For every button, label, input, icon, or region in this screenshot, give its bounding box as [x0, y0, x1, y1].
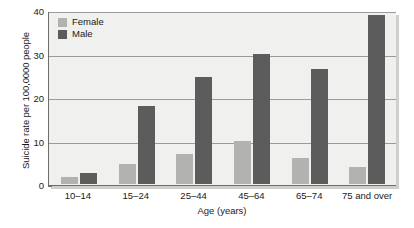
legend-item-male: Male: [58, 29, 104, 39]
bar-group: [165, 12, 223, 184]
x-axis-tick-label: 10–14: [49, 190, 107, 201]
legend-label: Male: [72, 29, 93, 39]
bar-group: [338, 12, 396, 184]
y-axis-tick-mark: [48, 186, 52, 187]
legend-label: Female: [72, 17, 104, 27]
legend-swatch-icon: [58, 18, 67, 27]
y-axis-tick-label: 40: [33, 7, 44, 17]
bar-male: [138, 106, 155, 184]
y-axis-tick-label: 20: [33, 94, 44, 104]
legend-swatch-icon: [58, 30, 67, 39]
y-axis-tick-label: 0: [39, 181, 44, 191]
plot-area: FemaleMale: [48, 12, 396, 186]
x-axis-tick-label: 15–24: [107, 190, 165, 201]
bar-male: [368, 15, 385, 184]
x-axis-tick-label: 75 and over: [338, 190, 396, 201]
bar-female: [119, 164, 136, 184]
y-axis-tick-label: 30: [33, 51, 44, 61]
x-axis-tick-label: 45–64: [222, 190, 280, 201]
chart-figure: Suicide rate per 100,0000 people 0102030…: [0, 0, 414, 228]
bar-male: [195, 77, 212, 184]
bar-female: [349, 167, 366, 184]
bar-female: [234, 141, 251, 185]
y-axis-tick-labels: 010203040: [24, 12, 44, 186]
chart-legend: FemaleMale: [58, 17, 104, 41]
bar-group: [223, 12, 281, 184]
bar-female: [292, 158, 309, 184]
bar-group: [281, 12, 339, 184]
bar-male: [311, 69, 328, 184]
legend-item-female: Female: [58, 17, 104, 27]
y-axis-tick-label: 10: [33, 138, 44, 148]
bar-group: [108, 12, 166, 184]
x-axis-tick-label: 65–74: [280, 190, 338, 201]
x-axis-tick-label: 25–44: [165, 190, 223, 201]
bar-female: [176, 154, 193, 184]
bar-female: [61, 177, 78, 184]
bar-male: [253, 54, 270, 184]
bar-male: [80, 173, 97, 184]
x-axis-title: Age (years): [48, 205, 396, 216]
x-axis-tick-labels: 10–1415–2425–4445–6465–7475 and over: [49, 190, 396, 201]
